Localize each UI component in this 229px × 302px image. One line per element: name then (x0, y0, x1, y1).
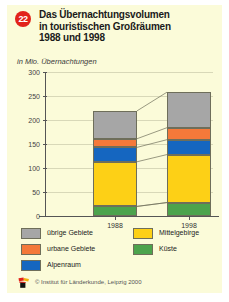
legend-label: Küste (159, 245, 177, 252)
title-line-2: in touristischen Großräumen (39, 21, 219, 33)
connector-line (137, 92, 167, 111)
y-axis-tick-label: 100 (28, 165, 40, 172)
y-axis-tick (43, 144, 47, 145)
x-axis-tick (189, 216, 190, 220)
legend-column-right: MittelgebirgeKüste (133, 227, 223, 259)
y-axis-tick (43, 96, 47, 97)
y-axis-tick-label: 200 (28, 117, 40, 124)
chart-number-badge: 22 (15, 11, 31, 27)
connector-line (137, 203, 167, 207)
copyright-credit: © Institut für Länderkunde, Leipzig 2000 (35, 279, 142, 285)
y-axis-tick (43, 216, 47, 217)
y-axis-tick (43, 168, 47, 169)
connector-line (137, 128, 167, 139)
bar-segment (167, 203, 211, 216)
y-axis-tick (43, 120, 47, 121)
legend-item-urbane_gebiete[interactable]: urbane Gebiete (21, 243, 131, 258)
page-title: Das Übernachtungsvolumen in touristische… (39, 9, 219, 44)
legend-swatch-uebrige_gebiete (21, 228, 41, 239)
connector-line (137, 203, 167, 207)
legend-label: übrige Gebiete (47, 229, 93, 236)
legend-label: Alpenraum (47, 261, 81, 268)
institut-fuer-laenderkunde-logo-icon (17, 277, 30, 289)
legend-item-mittelgebirge[interactable]: Mittelgebirge (133, 227, 223, 242)
bar-1988 (93, 72, 137, 216)
legend-label: urbane Gebiete (47, 245, 95, 252)
title-line-3: 1988 und 1998 (39, 32, 219, 44)
bar-segment (167, 140, 211, 155)
legend-column-left: übrige Gebieteurbane GebieteAlpenraum (21, 227, 131, 275)
x-axis-line (39, 216, 219, 217)
legend-swatch-alpenraum (21, 260, 41, 271)
chart-footer: © Institut für Länderkunde, Leipzig 2000 (17, 277, 217, 291)
y-axis-tick-label: 0 (36, 213, 40, 220)
legend-item-kueste[interactable]: Küste (133, 243, 223, 258)
chart-header: 22 Das Übernachtungsvolumen in touristis… (7, 5, 222, 53)
legend-item-uebrige_gebiete[interactable]: übrige Gebiete (21, 227, 131, 242)
x-axis-tick (115, 216, 116, 220)
chart-legend: übrige Gebieteurbane GebieteAlpenraum Mi… (21, 227, 217, 275)
y-axis-tick-label: 50 (32, 189, 40, 196)
axis-unit-label: in Mio. Übernachtungen (17, 57, 97, 66)
y-axis-tick-label: 250 (28, 93, 40, 100)
legend-label: Mittelgebirge (159, 229, 199, 236)
y-axis-tick-label: 300 (28, 69, 40, 76)
bar-segment (93, 162, 137, 207)
bar-1998 (167, 72, 211, 216)
legend-swatch-kueste (133, 244, 153, 255)
y-axis-tick (43, 192, 47, 193)
figure-panel: 22 Das Übernachtungsvolumen in touristis… (7, 5, 222, 293)
title-line-1: Das Übernachtungsvolumen (39, 9, 219, 21)
legend-swatch-mittelgebirge (133, 228, 153, 239)
bar-segment (93, 139, 137, 148)
bar-segment (167, 155, 211, 203)
y-axis-tick-label: 150 (28, 141, 40, 148)
bar-segment (167, 128, 211, 140)
connector-line (137, 155, 167, 162)
bar-segment (93, 147, 137, 161)
y-axis-tick (43, 72, 47, 73)
bar-segment (93, 111, 137, 139)
chart-plot-area: 050100150200250300 19881998 (45, 72, 213, 216)
legend-swatch-urbane_gebiete (21, 244, 41, 255)
legend-item-alpenraum[interactable]: Alpenraum (21, 259, 131, 274)
bar-segment (167, 92, 211, 128)
bar-segment (93, 206, 137, 216)
